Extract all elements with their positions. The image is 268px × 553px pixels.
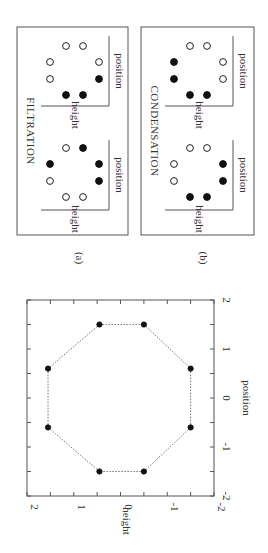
filled-dot: [220, 161, 227, 168]
open-dot: [187, 145, 194, 152]
mini-position-label: position: [114, 53, 126, 89]
octagon-points: [45, 322, 193, 474]
open-dot: [220, 59, 227, 66]
mini-panel: positionheight: [41, 36, 126, 129]
filled-dot: [187, 194, 194, 201]
filled-dot: [96, 76, 103, 83]
open-dot: [47, 178, 54, 185]
figure: FILTRATION CONDENSATION (a) (b) position…: [0, 0, 268, 553]
height-tick-label: -1: [169, 502, 181, 511]
open-dot: [63, 194, 70, 201]
panel-a-caption: (a): [73, 252, 86, 265]
mini-height-label: height: [194, 205, 206, 233]
x-axis-label: position: [241, 380, 253, 416]
filled-dot: [96, 178, 103, 185]
mini-height-label: height: [70, 205, 82, 233]
open-dot: [220, 76, 227, 83]
open-dot: [96, 59, 103, 66]
octagon-edge: [144, 427, 191, 471]
mini-height-label: height: [70, 101, 82, 129]
data-point: [141, 469, 146, 474]
y-axis-label: height: [121, 507, 133, 535]
mini-panel: positionheight: [41, 140, 126, 233]
open-dot: [204, 145, 211, 152]
filled-dot: [63, 92, 70, 99]
open-dot: [47, 76, 54, 83]
filled-dot: [80, 92, 87, 99]
height-tick-label: -2: [216, 502, 228, 511]
height-tick-label: 1: [76, 504, 88, 510]
height-tick-label: 2: [29, 504, 41, 510]
axis-ticks: -2-1012-2-1012: [27, 297, 233, 511]
panel-b-title: CONDENSATION: [149, 86, 161, 177]
filled-dot: [204, 92, 211, 99]
plot-frame: [27, 300, 214, 496]
data-point: [141, 322, 146, 327]
position-tick-label: -2: [221, 491, 233, 500]
open-dot: [63, 43, 70, 50]
filled-dot: [171, 59, 178, 66]
mini-panel: positionheight: [165, 140, 250, 233]
open-dot: [63, 145, 70, 152]
filled-dot: [47, 161, 54, 168]
octagon-edge: [48, 325, 99, 369]
filled-dot: [80, 145, 87, 152]
open-dot: [171, 178, 178, 185]
panel-a-title: FILTRATION: [25, 97, 37, 165]
data-point: [188, 366, 193, 371]
open-dot: [47, 59, 54, 66]
mini-position-label: position: [114, 157, 126, 193]
position-tick-label: 2: [221, 297, 233, 303]
filled-dot: [171, 76, 178, 83]
data-point: [97, 469, 102, 474]
data-point: [45, 425, 50, 430]
mini-height-label: height: [194, 101, 206, 129]
mini-position-label: position: [238, 53, 250, 89]
filled-dot: [187, 92, 194, 99]
octagon-plot: -2-1012-2-1012 position height: [27, 297, 253, 535]
open-dot: [80, 43, 87, 50]
filled-dot: [220, 178, 227, 185]
position-tick-label: 1: [221, 346, 233, 352]
octagon-edges: [48, 325, 191, 472]
open-dot: [187, 43, 194, 50]
open-dot: [80, 194, 87, 201]
open-dot: [171, 161, 178, 168]
mini-panels: positionheightpositionheightpositionheig…: [41, 36, 250, 233]
octagon-edge: [144, 325, 191, 369]
octagon-edge: [48, 427, 99, 471]
open-dot: [204, 43, 211, 50]
data-point: [45, 366, 50, 371]
filled-dot: [204, 194, 211, 201]
filled-dot: [96, 161, 103, 168]
position-tick-label: 0: [221, 395, 233, 401]
data-point: [97, 322, 102, 327]
data-point: [188, 425, 193, 430]
mini-position-label: position: [238, 157, 250, 193]
mini-panel: positionheight: [165, 36, 250, 129]
panel-b-caption: (b): [197, 252, 210, 265]
position-tick-label: -1: [221, 442, 233, 451]
